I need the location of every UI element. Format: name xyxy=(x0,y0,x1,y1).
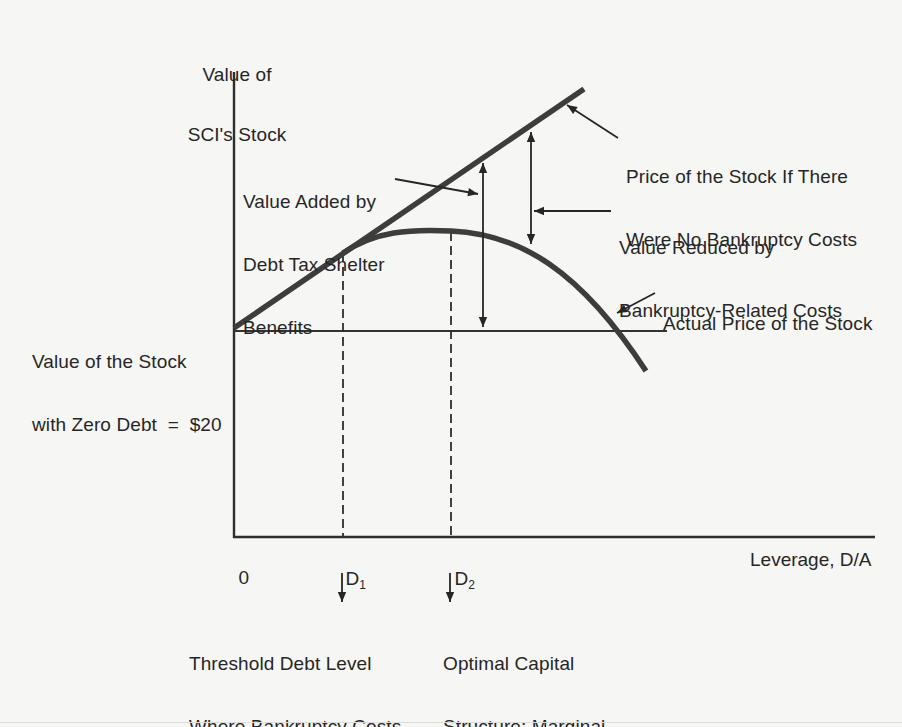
tick-subscript: 2 xyxy=(468,578,475,592)
value-added-annotation: Value Added by Debt Tax Shelter Benefits xyxy=(243,149,385,359)
x-tick-d2: D2 xyxy=(444,547,475,589)
actual-price-curve xyxy=(343,230,646,371)
bottom-divider xyxy=(0,722,902,723)
annotation-line: Benefits xyxy=(243,317,385,338)
tick-subscript: 1 xyxy=(359,578,366,592)
threshold-debt-explanation: Threshold Debt Level Where Bankruptcy Co… xyxy=(189,611,401,727)
annotation-line: Price of the Stock If There xyxy=(626,166,857,187)
zero-debt-label-line: with Zero Debt = $20 xyxy=(32,414,222,435)
x-tick-zero: 0 xyxy=(228,546,249,588)
annotation-line: Actual Price of the Stock xyxy=(663,313,873,334)
y-axis-title-line: SCI's Stock xyxy=(167,125,307,145)
x-axis-title: Leverage, D/A xyxy=(750,549,871,570)
x-tick-d1: D1 xyxy=(335,547,366,589)
zero-debt-value-label: Value of the Stock with Zero Debt = $20 xyxy=(32,309,222,456)
tick-label: 0 xyxy=(239,567,250,588)
explanation-line: Threshold Debt Level xyxy=(189,653,401,674)
annotation-line: Value Added by xyxy=(243,191,385,212)
tick-label: D xyxy=(346,568,360,589)
y-axis-title-line: Value of xyxy=(167,65,307,85)
annotation-line: Value Reduced by xyxy=(619,237,842,258)
no-bankruptcy-pointer-arrow xyxy=(567,105,618,138)
zero-debt-label-line: Value of the Stock xyxy=(32,351,222,372)
annotation-line: Debt Tax Shelter xyxy=(243,254,385,275)
tick-label: D xyxy=(455,568,469,589)
optimal-capital-structure-explanation: Optimal Capital Structure: Marginal Tax … xyxy=(443,611,673,727)
y-axis-title: Value of SCI's Stock xyxy=(167,25,307,165)
explanation-line: Optimal Capital xyxy=(443,653,673,674)
actual-price-annotation: Actual Price of the Stock xyxy=(663,271,873,355)
